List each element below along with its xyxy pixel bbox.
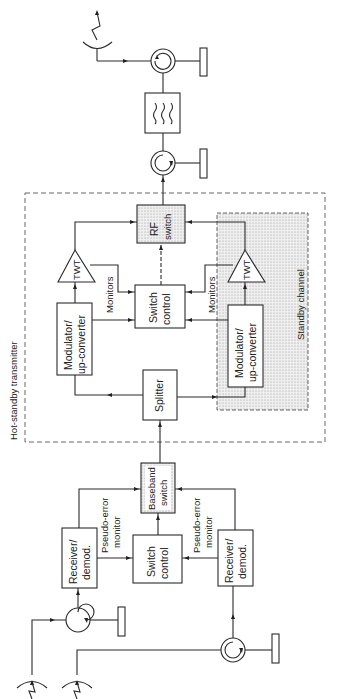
standby-channel-label: Standby channel: [295, 269, 306, 340]
matched-load-rx-standby-icon: [272, 634, 279, 663]
diagram-canvas: Hot-standby transmitter Standby channel …: [0, 0, 337, 699]
receiver-main-label-2: demod.: [80, 545, 92, 580]
pseudo-error-main-label-1: Pseudo-error: [99, 498, 110, 553]
switch-control-rx-label-2: control: [158, 547, 170, 579]
modulator-standby-label-1: Modulator/: [233, 328, 245, 378]
switch-control-tx-label-2: control: [160, 293, 172, 325]
modulator-main-label-2: up-converter: [75, 315, 87, 374]
hot-standby-label: Hot-standby transmitter: [8, 341, 19, 440]
transmit-antenna-icon: [83, 10, 112, 61]
pseudo-error-main-label-2: monitor: [111, 516, 122, 548]
modulator-main-label-1: Modulator/: [62, 320, 74, 370]
matched-load-output-icon: [200, 149, 207, 178]
pseudo-error-standby-label-2: monitor: [203, 516, 214, 548]
circulator-rx-standby-icon: [221, 638, 245, 662]
receiver-standby-label-1: Receiver/: [223, 539, 235, 583]
circulator-output-icon: [151, 151, 175, 175]
receive-antenna-main-icon: [17, 680, 47, 699]
modulator-standby-label-2: up-converter: [246, 323, 258, 382]
bandpass-filter-icon: [145, 93, 180, 133]
rf-switch-label-1: RF: [148, 222, 160, 236]
twt-standby-label: TWT: [241, 259, 252, 280]
twt-main-label: TWT: [71, 259, 82, 280]
receiver-standby-label-2: demod.: [236, 544, 248, 579]
splitter-label: Splitter: [153, 379, 165, 412]
rf-switch-block: [137, 205, 185, 243]
switch-control-tx-label-1: Switch: [147, 292, 159, 323]
baseband-switch-label-1: Baseband: [146, 467, 157, 510]
matched-load-top-icon: [200, 48, 207, 76]
switch-control-rx-label-1: Switch: [145, 546, 157, 577]
circulator-top-icon: [151, 49, 175, 73]
receive-antenna-standby-icon: [62, 680, 92, 699]
monitors-standby-label: Monitors: [206, 276, 217, 313]
rf-switch-label-2: switch: [162, 214, 173, 240]
pseudo-error-standby-label-1: Pseudo-error: [191, 498, 202, 553]
matched-load-rx-main-icon: [118, 607, 125, 636]
receiver-main-label-1: Receiver/: [67, 540, 79, 584]
circulator-rx-main-icon: [66, 604, 94, 632]
monitors-main-label: Monitors: [104, 276, 115, 313]
baseband-switch-label-2: switch: [158, 480, 169, 506]
